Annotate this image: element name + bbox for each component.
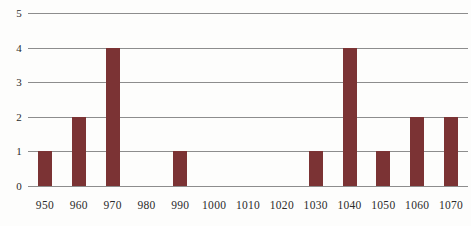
bar-1050: [376, 151, 390, 186]
bar-slot-1010: [231, 13, 265, 186]
bar-970: [106, 48, 120, 186]
x-axis: 950 960 970 980 990 1000 1010 1020 1030 …: [28, 186, 468, 226]
y-tick-2: 2: [0, 111, 22, 123]
y-tick-1: 1: [0, 145, 22, 157]
x-tick-1020: 1020: [270, 199, 294, 211]
plot-area: [28, 13, 468, 186]
y-tick-5: 5: [0, 7, 22, 19]
y-tick-3: 3: [0, 76, 22, 88]
x-tick-980: 980: [137, 199, 155, 211]
bar-950: [38, 151, 52, 186]
bar-slot-1000: [197, 13, 231, 186]
bar-slot-950: [28, 13, 62, 186]
bar-chart: 5 4 3 2 1 0 950 960 970 980 990 1000 101…: [0, 0, 471, 226]
bar-960: [72, 117, 86, 186]
x-tick-970: 970: [104, 199, 122, 211]
bar-1030: [309, 151, 323, 186]
bar-slot-1020: [265, 13, 299, 186]
bar-slot-990: [163, 13, 197, 186]
bar-990: [173, 151, 187, 186]
x-tick-1050: 1050: [371, 199, 395, 211]
x-tick-1040: 1040: [337, 199, 361, 211]
bar-slot-980: [130, 13, 164, 186]
bar-1070: [444, 117, 458, 186]
x-tick-1030: 1030: [304, 199, 328, 211]
y-tick-0: 0: [0, 180, 22, 192]
x-tick-1070: 1070: [439, 199, 463, 211]
bar-slot-1070: [434, 13, 468, 186]
bar-slot-970: [96, 13, 130, 186]
bar-slot-1050: [366, 13, 400, 186]
bars-layer: [28, 13, 468, 186]
bar-slot-1030: [299, 13, 333, 186]
bar-slot-1040: [333, 13, 367, 186]
bar-1040: [343, 48, 357, 186]
y-tick-4: 4: [0, 42, 22, 54]
x-tick-990: 990: [171, 199, 189, 211]
x-tick-1000: 1000: [202, 199, 226, 211]
x-tick-1010: 1010: [236, 199, 260, 211]
bar-slot-1060: [400, 13, 434, 186]
x-tick-950: 950: [36, 199, 54, 211]
bar-slot-960: [62, 13, 96, 186]
x-tick-1060: 1060: [405, 199, 429, 211]
x-tick-960: 960: [70, 199, 88, 211]
bar-1060: [410, 117, 424, 186]
